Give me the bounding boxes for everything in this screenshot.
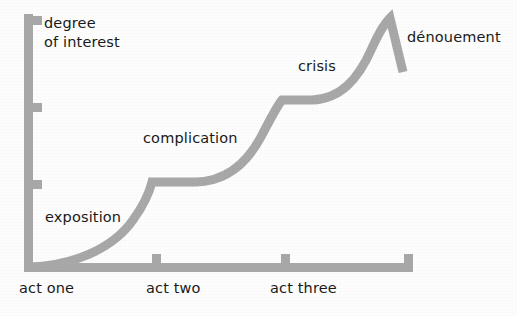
x-axis-tick-act-two [152,254,161,263]
x-axis-tick-act-three [281,254,290,263]
y-axis-title-line-1: degree [44,15,96,31]
x-tick-label-act-three: act three [270,279,337,298]
x-tick-label-act-one: act one [19,279,74,298]
x-axis-tick-end [404,254,413,263]
dramatic-arc-figure: degreeof interest exposition complicatio… [0,0,517,316]
y-axis-line [24,14,33,272]
x-axis-line [24,263,413,272]
label-crisis: crisis [298,57,336,76]
y-axis-title: degreeof interest [44,14,120,52]
label-exposition: exposition [45,208,121,227]
label-complication: complication [143,129,238,148]
y-axis-tick-top [33,16,42,25]
label-denouement: dénouement [407,28,501,47]
y-axis-title-line-2: of interest [44,34,120,50]
y-axis-tick-middle [33,103,42,112]
x-tick-label-act-two: act two [146,279,201,298]
y-axis-tick-lower [33,180,42,189]
